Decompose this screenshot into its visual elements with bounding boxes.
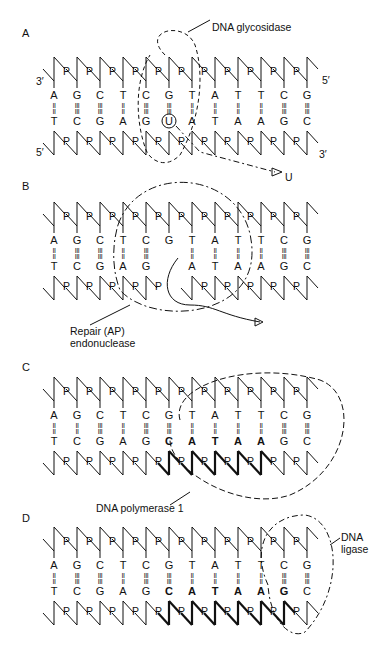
top-base: G xyxy=(301,559,313,571)
top-base: T xyxy=(186,234,198,246)
bottom-base: G xyxy=(94,585,106,597)
phosphate-label-bottom: P xyxy=(247,135,254,147)
top-base: C xyxy=(140,234,152,246)
arrowhead xyxy=(272,168,282,176)
bottom-base: G xyxy=(140,115,152,127)
bottom-base: C xyxy=(163,585,175,597)
phosphate-label-bottom: P xyxy=(63,605,70,617)
phosphate-label-top: P xyxy=(293,65,300,77)
bottom-base: A xyxy=(232,260,244,272)
phosphate-label-bottom: P xyxy=(247,280,254,292)
top-base: G xyxy=(163,409,175,421)
enzyme-label-dna-polymerase: DNA polymerase 1 xyxy=(96,502,184,514)
phosphate-label-top: P xyxy=(109,385,116,397)
hydrogen-bond: II xyxy=(255,429,267,434)
top-sugar-link xyxy=(43,389,54,401)
bottom-base: A xyxy=(255,435,267,447)
hydrogen-bond: II xyxy=(255,254,267,259)
panel-label-a: A xyxy=(22,27,29,39)
phosphate-label-bottom: P xyxy=(132,135,139,147)
hydrogen-bond: III xyxy=(301,579,313,584)
bottom-backbone-diagonal xyxy=(307,451,318,463)
top-base: T xyxy=(117,409,129,421)
bottom-base: T xyxy=(209,585,221,597)
bottom-sugar-link xyxy=(181,288,192,300)
hydrogen-bond: III xyxy=(301,429,313,434)
top-base: G xyxy=(301,234,313,246)
top-base: G xyxy=(163,559,175,571)
phosphate-label-top: P xyxy=(132,65,139,77)
bottom-sugar-link xyxy=(43,613,54,625)
top-base: G xyxy=(301,409,313,421)
hydrogen-bond: III xyxy=(278,254,290,259)
bottom-backbone-diagonal xyxy=(307,131,318,143)
phosphate-label-bottom: P xyxy=(224,605,231,617)
ligase-leader-line xyxy=(330,538,340,545)
top-base: C xyxy=(278,89,290,101)
top-base: C xyxy=(140,89,152,101)
enzyme-label-dna-glycosidase: DNA glycosidase xyxy=(212,21,291,33)
phosphate-label-bottom: P xyxy=(178,455,185,467)
panel-label-d: D xyxy=(22,512,30,524)
bottom-sugar-link xyxy=(43,288,54,300)
hydrogen-bond: II xyxy=(209,429,221,434)
top-base: T xyxy=(186,89,198,101)
bottom-base: G xyxy=(278,435,290,447)
bottom-base: G xyxy=(140,260,152,272)
phosphate-label-bottom: P xyxy=(224,135,231,147)
top-base: T xyxy=(232,234,244,246)
phosphate-label-top: P xyxy=(109,65,116,77)
bottom-base: A xyxy=(117,260,129,272)
phosphate-label-top: P xyxy=(270,65,277,77)
phosphate-label-bottom: P xyxy=(178,605,185,617)
bottom-base: G xyxy=(140,435,152,447)
top-base: C xyxy=(140,409,152,421)
uracil-release-arrow xyxy=(176,126,275,172)
bottom-base: A xyxy=(117,115,129,127)
phosphate-label-bottom: P xyxy=(155,280,162,292)
phosphate-label-top: P xyxy=(155,385,162,397)
phosphate-label-top: P xyxy=(270,535,277,547)
top-base: A xyxy=(209,409,221,421)
top-base: C xyxy=(140,559,152,571)
bottom-base: A xyxy=(186,585,198,597)
hydrogen-bond: II xyxy=(255,579,267,584)
top-sugar-link xyxy=(43,69,54,81)
phosphate-label-top: P xyxy=(178,65,185,77)
released-uracil-label: U xyxy=(285,171,293,183)
hydrogen-bond: II xyxy=(232,579,244,584)
phosphate-label-bottom: P xyxy=(155,605,162,617)
phosphate-label-top: P xyxy=(86,65,93,77)
top-base: G xyxy=(71,409,83,421)
phosphate-label-top: P xyxy=(224,210,231,222)
phosphate-label-bottom: P xyxy=(86,135,93,147)
phosphate-label-bottom: P xyxy=(270,455,277,467)
hydrogen-bond: III xyxy=(301,254,313,259)
phosphate-label-bottom: P xyxy=(63,280,70,292)
bottom-base: C xyxy=(301,435,313,447)
phosphate-label-top: P xyxy=(155,210,162,222)
phosphate-label-top: P xyxy=(63,385,70,397)
phosphate-label-bottom: P xyxy=(247,455,254,467)
hydrogen-bond: III xyxy=(278,579,290,584)
dna-base-excision-repair-figure: A B C D DNA glycosidase U Repair (AP) en… xyxy=(0,0,386,654)
enzyme-label-ap-endonuclease-line2: endonuclease xyxy=(70,337,135,349)
bottom-base: C xyxy=(163,435,175,447)
phosphate-label-top: P xyxy=(109,210,116,222)
bottom-base: C xyxy=(301,260,313,272)
hydrogen-bond: II xyxy=(71,429,83,434)
strand-end-top-left: 3′ xyxy=(36,75,44,87)
phosphate-label-bottom: P xyxy=(293,135,300,147)
phosphate-label-bottom: P xyxy=(109,280,116,292)
hydrogen-bond: II xyxy=(117,109,129,114)
hydrogen-bond: III xyxy=(94,109,106,114)
top-base: C xyxy=(278,409,290,421)
panel-label-c: C xyxy=(22,361,30,373)
hydrogen-bond: II xyxy=(186,429,198,434)
hydrogen-bond: II xyxy=(232,429,244,434)
phosphate-label-bottom: P xyxy=(86,280,93,292)
bottom-backbone-diagonal xyxy=(307,601,318,613)
phosphate-label-bottom: P xyxy=(109,135,116,147)
top-base: A xyxy=(48,234,60,246)
hydrogen-bond: III xyxy=(301,109,313,114)
